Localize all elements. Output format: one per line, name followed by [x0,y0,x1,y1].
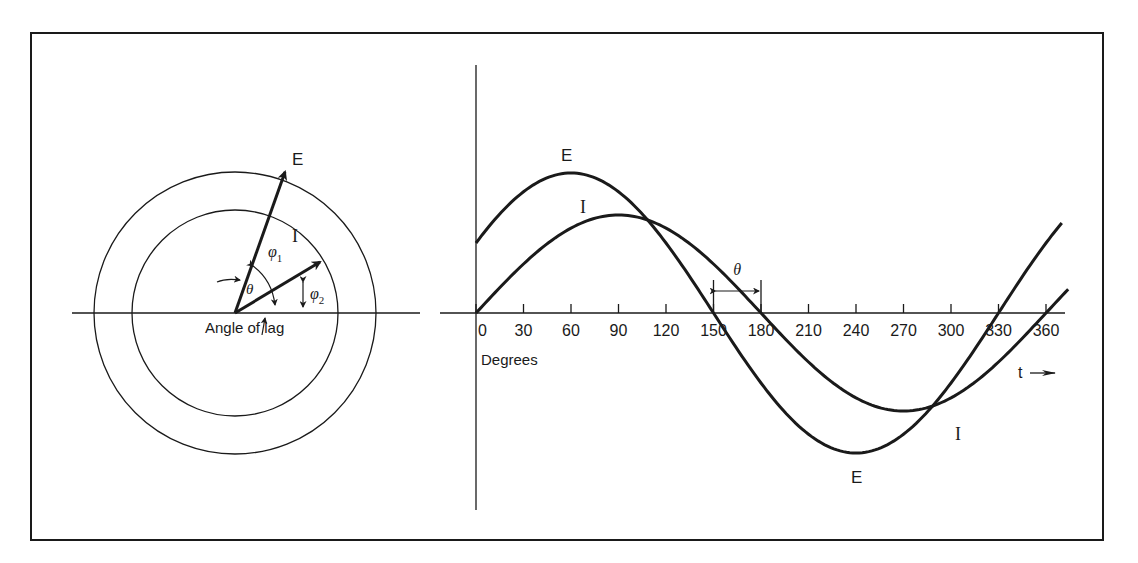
x-tick-label: 150 [700,322,727,339]
x-tick-label: 270 [890,322,917,339]
angle-of-lag-label: Angle of lag [205,319,284,336]
theta-label: θ [246,281,254,297]
series-i-label-bottom: I [955,424,961,444]
e-phasor-arrow [235,172,285,313]
phi1-label: φ1 [268,243,282,264]
theta-annotation-label: θ [733,261,741,278]
x-tick-label: 300 [938,322,965,339]
i-phasor-label: I [292,226,298,246]
series-i-label-top: I [580,197,586,217]
x-tick-label: 210 [795,322,822,339]
figure-canvas: E I θ φ1 φ2 Angle of lag 030609012015018… [0,0,1138,563]
theta-pointer-arrow [217,279,240,282]
x-tick-label: 30 [515,322,533,339]
x-tick-label: 330 [985,322,1012,339]
x-tick-label: 0 [478,322,487,339]
x-tick-label: 60 [562,322,580,339]
waveform-chart: 0306090120150180210240270300330360 Degre… [440,65,1068,510]
x-tick-label: 90 [610,322,628,339]
phi2-label: φ2 [310,285,324,306]
x-tick-label: 240 [843,322,870,339]
x-axis-label: Degrees [481,351,538,368]
e-phasor-label: E [292,150,303,169]
time-label: t [1018,364,1023,381]
phasor-diagram: E I θ φ1 φ2 Angle of lag [72,150,420,454]
series-e-label-bottom: E [851,468,862,487]
x-tick-label: 120 [653,322,680,339]
time-axis-label: t [1018,364,1055,381]
series-e-label-top: E [561,146,572,165]
figure-frame [31,33,1103,540]
